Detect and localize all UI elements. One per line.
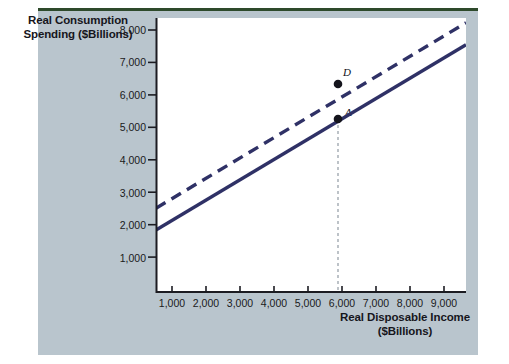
data-point-marker-a <box>334 115 343 124</box>
consumption-function-chart: Real Consumption Spending ($Billions) Re… <box>0 0 509 364</box>
chart-graphics <box>0 0 509 364</box>
data-point-marker-d <box>334 80 343 89</box>
series-line-shifted-consumption-function <box>156 23 466 208</box>
series-line-initial-consumption-function <box>156 45 466 230</box>
